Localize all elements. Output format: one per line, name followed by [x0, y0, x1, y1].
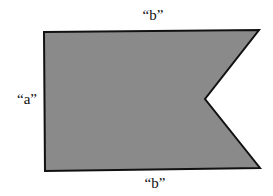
label-top-b: “b” — [143, 7, 164, 23]
label-left-a: “a” — [17, 91, 37, 107]
label-bottom-b: “b” — [145, 175, 166, 191]
flag-shape — [44, 30, 260, 171]
diagram-canvas: “b” “a” “b” — [0, 0, 273, 196]
